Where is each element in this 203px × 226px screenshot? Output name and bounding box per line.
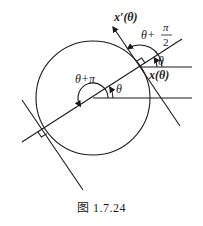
diagram-canvas: x′(θ) x(θ) θ θ θ+π θ+ π 2 [0, 0, 203, 226]
label-theta-plus-pi: θ+π [75, 72, 96, 86]
figure-caption: 图 1.7.24 [0, 198, 203, 216]
angle-arc-theta-tangent [154, 58, 157, 67]
label-theta-plus-half-pi-prefix: θ+ [141, 28, 155, 42]
tangent-line-lower-left [22, 100, 83, 190]
angle-arc-theta-center [110, 87, 113, 98]
label-x-prime: x′(θ) [113, 10, 138, 24]
label-theta-tangent: θ [158, 54, 164, 68]
right-angle-marker-lower [38, 132, 47, 137]
label-theta-center: θ [116, 82, 122, 96]
label-theta-plus-half-pi-num: π [163, 21, 169, 33]
label-theta-plus-half-pi-den: 2 [163, 36, 169, 48]
label-x: x(θ) [148, 68, 169, 82]
